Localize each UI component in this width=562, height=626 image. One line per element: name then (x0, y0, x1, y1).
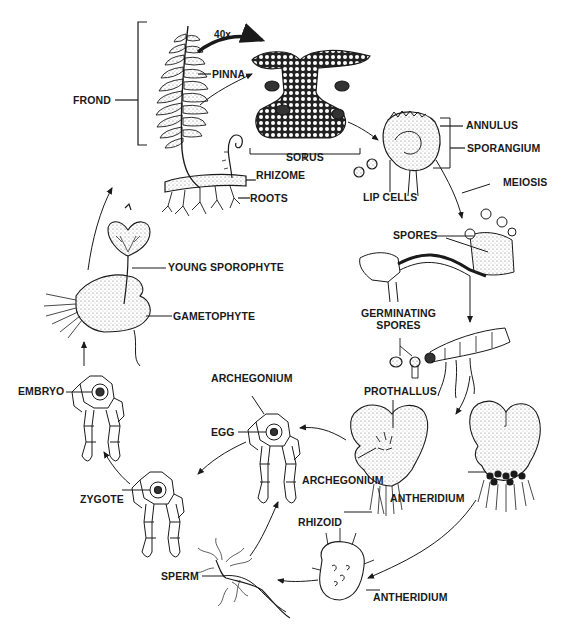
meiosis-leader (462, 184, 490, 193)
label-germinating-spores: GERMINATING SPORES (361, 307, 436, 331)
label-rhizome: RHIZOME (256, 170, 305, 181)
label-sporangium: SPORANGIUM (467, 143, 540, 154)
label-antheridium-mid: ANTHERIDIUM (390, 493, 465, 504)
label-rhizoid: RHIZOID (298, 517, 342, 528)
archegonium-egg-illustration (238, 396, 300, 503)
frond-bracket (115, 22, 147, 145)
label-egg: EGG (211, 427, 235, 438)
label-young-sporophyte: YOUNG SPOROPHYTE (168, 262, 284, 273)
rhizome-illustration (162, 174, 256, 216)
label-zygote: ZYGOTE (80, 494, 124, 505)
gametophyte-illustration (44, 204, 172, 366)
fern-life-cycle-diagram: 40x FROND PINNA SORUS RHIZOME ROOTS ANNU… (0, 0, 562, 626)
label-annulus: ANNULUS (466, 120, 518, 131)
antheridium-illustration (312, 528, 380, 600)
label-lip-cells: LIP CELLS (363, 192, 417, 203)
label-pinna: PINNA (212, 69, 245, 80)
magnification-label: 40x (214, 30, 231, 40)
label-spores: SPORES (393, 230, 437, 241)
label-gametophyte: GAMETOPHYTE (173, 311, 255, 322)
sperm-illustration (196, 538, 290, 618)
label-embryo: EMBRYO (18, 386, 64, 397)
embryo-illustration (66, 376, 124, 461)
label-archegonium-top: ARCHEGONIUM (211, 373, 293, 384)
label-archegonium-mid: ARCHEGONIUM (302, 475, 384, 486)
label-prothallus: PROTHALLUS (364, 386, 437, 397)
label-frond: FROND (73, 95, 111, 106)
prothallus-antheridial (468, 401, 540, 512)
open-sporangium (360, 209, 516, 302)
label-sorus: SORUS (286, 152, 324, 163)
label-meiosis: MEIOSIS (503, 177, 547, 188)
label-sperm: SPERM (161, 571, 199, 582)
sorus-cross-section (250, 50, 370, 160)
zygote-illustration (122, 472, 184, 557)
label-roots: ROOTS (250, 193, 288, 204)
label-antheridium-bottom: ANTHERIDIUM (373, 592, 448, 603)
